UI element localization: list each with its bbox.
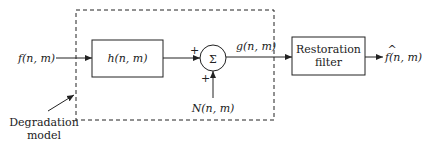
restoration-filter-label-line1: Restoration	[296, 43, 361, 56]
noise-label: N(n, m)	[191, 102, 235, 115]
degraded-signal-label: g(n, m)	[236, 40, 276, 53]
degradation-model-label-line1: Degradation	[9, 116, 78, 129]
plus-sign-top: +	[190, 44, 199, 57]
block-diagram: f(n, m) h(n, m) + Σ + N(n, m) g(n, m) Re…	[0, 0, 434, 146]
restoration-filter-label-line2: filter	[315, 56, 343, 69]
plus-sign-bottom: +	[201, 72, 210, 85]
input-label: f(n, m)	[17, 52, 55, 65]
degradation-model-label-line2: model	[27, 129, 62, 142]
output-label: f(n, m)	[384, 51, 422, 64]
degradation-model-pointer	[48, 95, 74, 111]
summation-symbol: Σ	[209, 53, 217, 66]
degradation-function-label: h(n, m)	[107, 52, 147, 65]
